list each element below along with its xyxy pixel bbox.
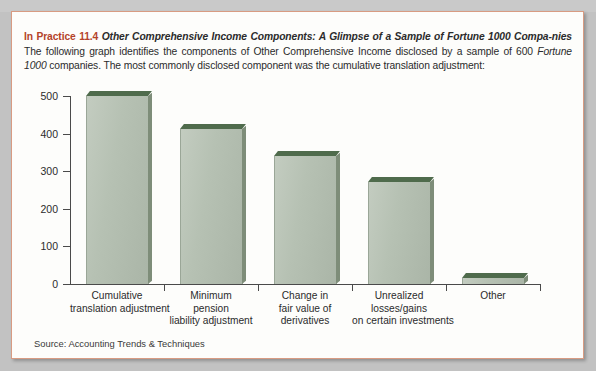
bar-side-face	[524, 275, 528, 284]
x-category-label: Cumulativetranslation adjustment	[70, 290, 164, 315]
bar-body	[274, 156, 337, 284]
bar-top-face	[180, 124, 246, 129]
callout-title-cont: nies	[552, 31, 572, 42]
x-category-label-line: Other	[446, 290, 540, 303]
bar-chart: 0100200300400500 Cumulativetranslation a…	[12, 74, 585, 360]
y-tick-label: 500	[40, 90, 58, 102]
x-category-label-line: pension	[164, 303, 258, 316]
x-category-label-line: liability adjustment	[164, 315, 258, 328]
x-category-label: Other	[446, 290, 540, 303]
bar-top-face	[368, 177, 434, 182]
in-practice-callout-box: In Practice 11.4 Other Comprehensive Inc…	[11, 11, 584, 359]
bar	[274, 151, 336, 284]
y-tick-label: 0	[52, 278, 58, 290]
x-category-label-line: Cumulative	[70, 290, 164, 303]
bar-side-face	[336, 153, 340, 284]
x-axis-end-tick	[540, 284, 541, 291]
bar-top-face	[462, 273, 528, 278]
y-tick	[63, 284, 71, 285]
x-category-label-line: Unrealized	[352, 290, 446, 303]
x-category-label-line: Minimum	[164, 290, 258, 303]
callout-body-part2: companies. The most commonly disclosed c…	[47, 60, 485, 71]
callout-title: Other Comprehensive Income Components: A…	[102, 31, 552, 42]
callout-kicker: In Practice 11.4	[24, 31, 98, 42]
x-category-label-line: on certain investments	[352, 315, 446, 328]
bar	[86, 91, 148, 284]
x-category-label-line: fair value of	[258, 303, 352, 316]
bar-body	[180, 129, 243, 284]
callout-intro-text: In Practice 11.4 Other Comprehensive Inc…	[24, 30, 572, 74]
bar-top-face	[274, 151, 340, 156]
bar-top-face	[86, 91, 152, 96]
y-tick-label: 400	[40, 128, 58, 140]
bar-body	[462, 278, 525, 284]
x-axis-line	[70, 284, 540, 285]
y-tick-label: 100	[40, 240, 58, 252]
bar-side-face	[148, 93, 152, 284]
y-axis-labels: 0100200300400500	[22, 84, 70, 284]
x-category-label-line: losses/gains	[352, 303, 446, 316]
x-category-label: Unrealizedlosses/gainson certain investm…	[352, 290, 446, 328]
bar	[180, 124, 242, 284]
y-tick-label: 200	[40, 203, 58, 215]
chart-plot-area: 0100200300400500	[70, 84, 540, 284]
chart-source-note: Source: Accounting Trends & Techniques	[34, 338, 205, 349]
x-category-label-line: Change in	[258, 290, 352, 303]
scanned-page: In Practice 11.4 Other Comprehensive Inc…	[0, 0, 596, 371]
bar-body	[368, 182, 431, 284]
x-category-label-line: derivatives	[258, 315, 352, 328]
bar	[368, 177, 430, 284]
bars-layer	[70, 84, 540, 284]
bar-side-face	[242, 126, 246, 284]
x-category-label: Minimumpensionliability adjustment	[164, 290, 258, 328]
x-category-label-line: translation adjustment	[70, 303, 164, 316]
callout-body-part1: The following graph identifies the compo…	[24, 46, 537, 57]
bar	[462, 273, 524, 284]
bar-body	[86, 96, 149, 284]
x-axis-category-labels: Cumulativetranslation adjustmentMinimump…	[70, 290, 540, 336]
x-category-label: Change infair value ofderivatives	[258, 290, 352, 328]
bar-side-face	[430, 179, 434, 284]
y-tick-label: 300	[40, 165, 58, 177]
